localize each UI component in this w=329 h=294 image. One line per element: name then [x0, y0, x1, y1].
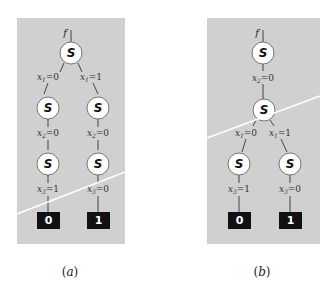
edge-label: x3=1	[228, 184, 250, 195]
edge-label: x1=0	[235, 128, 257, 139]
edge-label: x3=0	[279, 184, 301, 195]
svg-text:S: S	[235, 157, 244, 171]
svg-text:S: S	[44, 157, 53, 171]
caption-a: (a)	[62, 265, 79, 279]
switch-node: S	[87, 97, 109, 119]
switch-node: S	[60, 42, 82, 64]
svg-text:S: S	[44, 101, 53, 115]
switch-node: S	[279, 153, 301, 175]
edge-label: x2=0	[37, 128, 59, 139]
terminal-one: 1	[279, 212, 302, 229]
svg-text:S: S	[94, 157, 103, 171]
switch-node: S	[37, 153, 59, 175]
panel-b: f S S S S x2=0 x1=0 x1=1 x3=1 x3=0 0	[207, 18, 320, 279]
svg-text:1: 1	[287, 214, 295, 227]
panel-a: f S S S S S x1=0 x1=1 x2=0 x2=0 x3=1 x3=…	[17, 18, 125, 279]
svg-text:S: S	[67, 46, 76, 60]
svg-text:1: 1	[95, 214, 103, 227]
switch-node: S	[253, 99, 275, 121]
edge-label: x3=1	[37, 184, 59, 195]
switch-node: S	[87, 153, 109, 175]
switch-node: S	[228, 153, 250, 175]
caption-b: (b)	[253, 265, 270, 279]
terminal-one: 1	[87, 212, 110, 229]
svg-text:0: 0	[236, 214, 244, 227]
edge-label: x1=1	[269, 128, 291, 139]
edge-label: x1=1	[80, 72, 102, 83]
switch-node: S	[252, 42, 274, 64]
edge-label: x1=0	[37, 72, 59, 83]
terminal-zero: 0	[228, 212, 251, 229]
edge-label: x2=0	[252, 73, 274, 84]
svg-text:S: S	[286, 157, 295, 171]
figure-canvas: f S S S S S x1=0 x1=1 x2=0 x2=0 x3=1 x3=…	[0, 0, 329, 294]
svg-text:0: 0	[45, 214, 53, 227]
svg-text:S: S	[94, 101, 103, 115]
switch-node: S	[37, 97, 59, 119]
svg-text:S: S	[259, 46, 268, 60]
terminal-zero: 0	[37, 212, 60, 229]
edge-label: x2=0	[87, 128, 109, 139]
svg-text:S: S	[260, 103, 269, 117]
